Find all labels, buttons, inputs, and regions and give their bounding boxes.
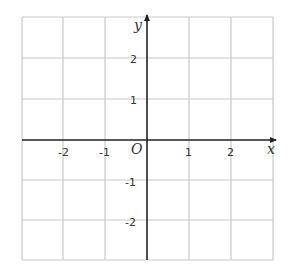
x-tick-label: 2: [227, 146, 234, 159]
y-tick-label: 1: [130, 94, 137, 107]
y-axis-label: y: [133, 17, 143, 33]
y-tick-label: -1: [125, 176, 136, 189]
x-tick-label: -2: [58, 146, 69, 159]
coordinate-plane: x y O -2 -1 1 2 2 1 -1 -2: [0, 0, 293, 272]
x-tick-label: 1: [185, 146, 192, 159]
origin-label: O: [131, 141, 143, 157]
y-tick-label: -2: [125, 216, 136, 229]
x-axis-label: x: [267, 141, 275, 157]
x-tick-label: -1: [99, 146, 110, 159]
y-tick-label: 2: [130, 53, 137, 66]
